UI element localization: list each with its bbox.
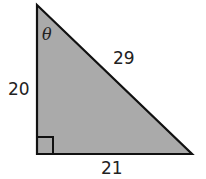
angle-theta-label: θ [42,27,52,43]
triangle-shape [37,5,192,154]
vertical-leg-label: 20 [8,81,30,98]
horizontal-leg-label: 21 [101,160,123,177]
triangle-diagram [0,0,206,179]
hypotenuse-label: 29 [113,50,135,67]
